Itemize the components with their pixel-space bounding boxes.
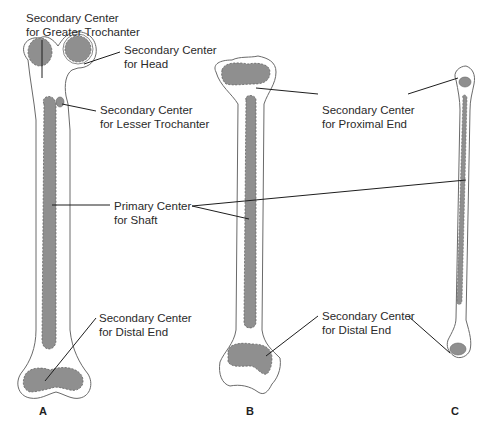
label-line: Secondary Center: [99, 312, 192, 326]
label-line: for Shaft: [114, 214, 191, 228]
label-greater-trochanter: Secondary Center for Greater Trochanter: [26, 12, 140, 39]
panel-label-b: B: [246, 405, 254, 417]
label-lesser-trochanter: Secondary Center for Lesser Trochanter: [100, 104, 209, 131]
label-distal-end-bc: Secondary Center for Distal End: [322, 310, 415, 337]
leader-distal-tibia: [266, 316, 318, 356]
bones-illustration: [0, 0, 493, 426]
leader-proximal-fibula: [408, 78, 458, 94]
label-primary-shaft: Primary Center for Shaft: [114, 200, 191, 227]
fibula-bone-c: [447, 66, 474, 358]
label-head: Secondary Center for Head: [124, 44, 217, 71]
leader-primary-fibula: [192, 180, 466, 206]
label-line: Secondary Center: [124, 44, 217, 58]
label-line: Secondary Center: [26, 12, 140, 26]
panel-label-a: A: [39, 405, 47, 417]
label-line: Secondary Center: [322, 104, 415, 118]
label-line: for Distal End: [322, 324, 415, 338]
label-proximal-end: Secondary Center for Proximal End: [322, 104, 415, 131]
femur-bone-a: [18, 32, 96, 399]
panel-label-c: C: [451, 405, 459, 417]
label-line: for Greater Trochanter: [26, 26, 140, 40]
label-distal-end-a: Secondary Center for Distal End: [99, 312, 192, 339]
label-line: Primary Center: [114, 200, 191, 214]
label-line: for Head: [124, 58, 217, 72]
label-line: Secondary Center: [100, 104, 209, 118]
ossification-centers-diagram: Secondary Center for Greater Trochanter …: [0, 0, 493, 426]
label-line: for Proximal End: [322, 118, 415, 132]
label-line: for Distal End: [99, 326, 192, 340]
label-line: Secondary Center: [322, 310, 415, 324]
label-line: for Lesser Trochanter: [100, 118, 209, 132]
tibia-bone-b: [215, 56, 280, 394]
